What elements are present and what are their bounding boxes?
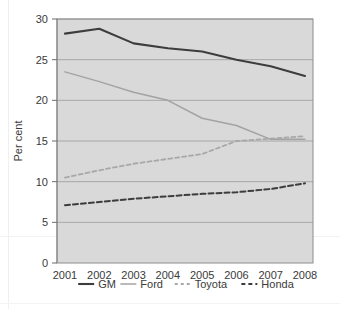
y-tick-label: 0	[42, 257, 48, 269]
y-axis-ticks: 051015202530	[36, 13, 57, 269]
y-tick-label: 20	[36, 94, 48, 106]
legend-label-toyota: Toyota	[195, 278, 228, 290]
y-tick-label: 30	[36, 13, 48, 25]
y-tick-label: 25	[36, 54, 48, 66]
legend-label-ford: Ford	[140, 278, 163, 290]
line-chart: 051015202530 200120022003200420052006200…	[0, 0, 340, 309]
y-tick-label: 15	[36, 135, 48, 147]
y-tick-label: 10	[36, 176, 48, 188]
y-axis-title: Per cent	[12, 121, 24, 162]
legend-label-gm: GM	[98, 278, 116, 290]
x-tick-label: 2008	[293, 269, 317, 281]
x-tick-label: 2006	[224, 269, 248, 281]
y-tick-label: 5	[42, 216, 48, 228]
chart-page: 051015202530 200120022003200420052006200…	[0, 0, 340, 309]
x-tick-label: 2001	[53, 269, 77, 281]
chart-legend: GMFordToyotaHonda	[78, 278, 294, 290]
legend-label-honda: Honda	[261, 278, 294, 290]
